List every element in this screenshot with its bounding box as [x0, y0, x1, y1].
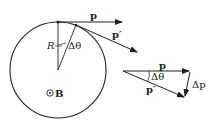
magnetic-field-dot-icon — [49, 92, 51, 94]
label-radius: R — [46, 40, 55, 51]
triangle-arrow-delta-p — [185, 72, 190, 96]
label-p-triangle: p — [159, 60, 166, 71]
angle-arc-circle — [58, 43, 66, 45]
diagram-canvas: p p′ R Δθ B p Δθ p′ Δp — [0, 0, 214, 123]
label-delta-theta-circle: Δθ — [68, 40, 81, 51]
angle-arc-triangle — [148, 71, 149, 81]
label-p-top: p — [90, 10, 97, 21]
momentum-arrow-p-prime — [76, 25, 137, 52]
label-p-prime-triangle: p′ — [146, 84, 156, 95]
label-p-prime-top: p′ — [112, 29, 122, 40]
label-field-b: B — [55, 88, 63, 99]
label-delta-p: Δp — [192, 79, 206, 90]
label-delta-theta-triangle: Δθ — [151, 71, 164, 82]
